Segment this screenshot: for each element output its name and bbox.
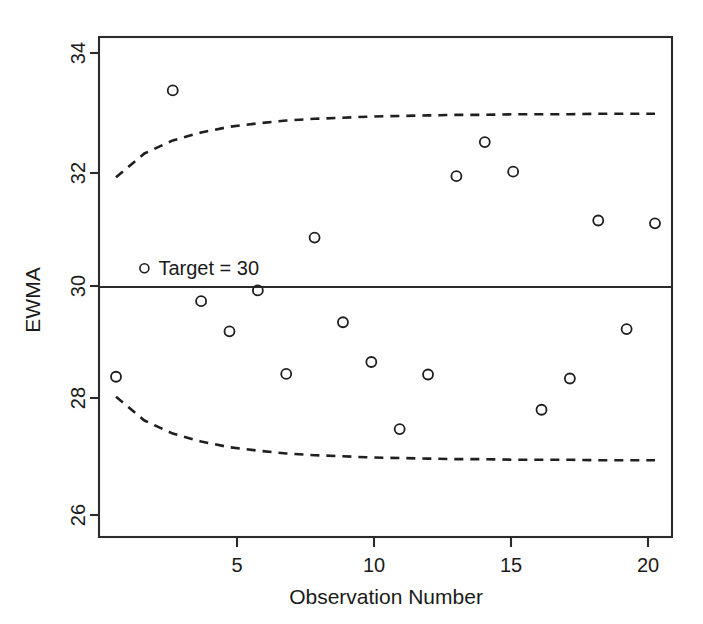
x-tick-label-5: 5 — [231, 554, 242, 576]
ewma-control-chart: 34 32 30 28 26 EWMA 5 10 15 20 Observati… — [0, 0, 703, 624]
y-tick-label-28: 28 — [67, 387, 89, 409]
x-tick-label-10: 10 — [363, 554, 385, 576]
x-tick-label-15: 15 — [500, 554, 522, 576]
y-tick-label-34: 34 — [67, 42, 89, 64]
y-axis-title: EWMA — [21, 267, 44, 332]
legend-target-label: Target = 30 — [158, 257, 259, 279]
x-tick-label-20: 20 — [637, 554, 659, 576]
chart-canvas: 34 32 30 28 26 EWMA 5 10 15 20 Observati… — [0, 0, 703, 624]
x-axis-title: Observation Number — [289, 585, 483, 608]
y-tick-label-32: 32 — [67, 162, 89, 184]
target-legend: Target = 30 — [140, 257, 259, 279]
y-tick-label-30: 30 — [67, 275, 89, 297]
y-tick-label-26: 26 — [67, 504, 89, 526]
chart-background — [0, 0, 703, 624]
